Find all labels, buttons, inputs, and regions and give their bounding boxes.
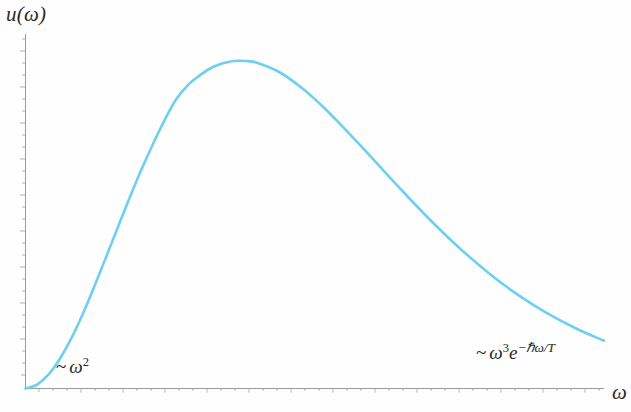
annotation-high-frequency: ~ω3e−ℏω/T: [476, 342, 555, 364]
annotation-left-exponent: 2: [83, 355, 89, 369]
annotation-right-tilde: ~: [476, 342, 489, 363]
annotation-right-base: ω: [489, 342, 502, 363]
annotation-left-tilde: ~: [56, 356, 69, 377]
annotation-low-frequency: ~ω2: [56, 356, 89, 378]
annotation-right-e-exponent: −ℏω/T: [517, 340, 554, 355]
x-axis-ticks: [39, 389, 599, 393]
y-axis-ticks: [20, 39, 26, 375]
annotation-left-base: ω: [69, 356, 82, 377]
y-axis-label: u(ω): [6, 2, 46, 27]
x-axis-label: ω: [612, 380, 627, 405]
figure-canvas: u(ω) ω ~ω2 ~ω3e−ℏω/T: [0, 0, 631, 412]
